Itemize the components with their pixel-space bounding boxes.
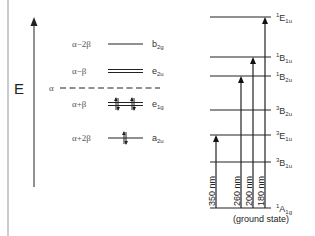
- energy-axis-arrowhead-icon: [31, 17, 38, 26]
- electron-pair-icon: [114, 97, 120, 111]
- energy-axis-label: E: [14, 80, 24, 97]
- orbital-symmetry-label: e1g: [152, 99, 164, 110]
- arrowhead-icon: [213, 135, 219, 142]
- transition-arrow: 180 nm: [256, 17, 269, 208]
- orbital-energy-label: α−2β: [72, 39, 91, 49]
- transition-wavelength-label: 180 nm: [256, 176, 266, 206]
- state-label: 3B1u: [276, 157, 292, 169]
- state-label: 1E1u: [276, 12, 292, 24]
- state-1E1u: 1E1u: [210, 12, 292, 24]
- orbital-b2g: α−2βb2g: [72, 39, 164, 50]
- transition-wavelength-label: 350 nm: [207, 176, 217, 206]
- state-3B2u: 3B2u: [210, 105, 292, 117]
- arrowhead-icon: [262, 17, 268, 24]
- arrowhead-icon: [238, 76, 244, 83]
- orbital-e1g: α+βe1g: [72, 97, 164, 111]
- state-label: 1B2u: [276, 71, 292, 83]
- electron-pair-icon: [130, 97, 136, 111]
- orbital-e2u: α−βe2u: [72, 66, 164, 77]
- transitions: 350 nm260 nm200 nm180 nm: [207, 17, 269, 208]
- transition-arrow: 200 nm: [244, 57, 257, 208]
- orbital-energy-label: α−β: [72, 66, 87, 76]
- orbital-symmetry-label: b2g: [152, 39, 164, 50]
- ground-state-note: (ground state): [233, 214, 289, 224]
- transition-wavelength-label: 260 nm: [232, 176, 242, 206]
- orbital-a2u: α+2βa2u: [72, 131, 164, 145]
- orbital-symmetry-label: a2u: [152, 133, 164, 144]
- state-1B2u: 1B2u: [210, 71, 292, 83]
- state-3B1u: 3B1u: [210, 157, 292, 169]
- orbital-energy-label: α+2β: [72, 133, 91, 143]
- orbital-levels: α−2βb2gα−βe2uα+βe1gα+2βa2u: [72, 39, 164, 145]
- orbital-energy-label: α+β: [72, 99, 87, 109]
- state-label: 1B1u: [276, 52, 292, 64]
- transition-arrow: 350 nm: [207, 135, 220, 208]
- state-label: 3E1u: [276, 130, 292, 142]
- state-3E1u: 3E1u: [210, 130, 292, 142]
- state-label: 3B2u: [276, 105, 292, 117]
- orbital-symmetry-label: e2u: [152, 66, 164, 77]
- transition-wavelength-label: 200 nm: [244, 176, 254, 206]
- alpha-reference-label: α: [49, 83, 54, 93]
- energy-level-diagram: E α α−2βb2gα−βe2uα+βe1gα+2βa2u 1E1u1B1u1…: [0, 0, 315, 236]
- arrowhead-icon: [250, 57, 256, 64]
- transition-arrow: 260 nm: [232, 76, 245, 208]
